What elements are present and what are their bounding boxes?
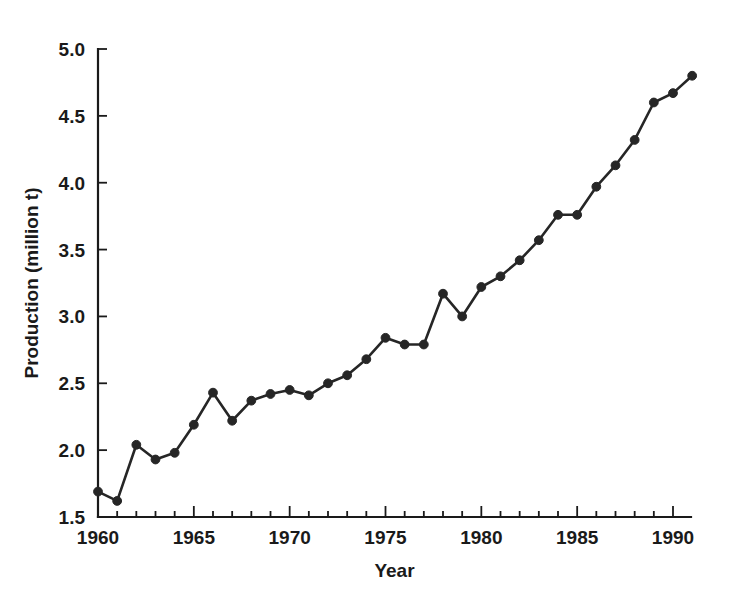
data-point-marker	[189, 420, 198, 429]
y-tick-label: 4.0	[59, 173, 85, 194]
plot-area	[94, 71, 697, 505]
data-point-marker	[554, 210, 563, 219]
data-point-marker	[343, 371, 352, 380]
data-point-marker	[285, 386, 294, 395]
y-tick-label: 5.0	[59, 39, 85, 60]
data-point-marker	[362, 355, 371, 364]
data-point-marker	[496, 272, 505, 281]
y-axis-title: Production (million t)	[21, 187, 42, 378]
x-tick-label: 1965	[173, 527, 216, 548]
data-point-marker	[324, 379, 333, 388]
data-point-marker	[688, 71, 697, 80]
x-axis: 1960196519701975198019851990	[77, 506, 694, 548]
y-tick-label: 3.5	[59, 240, 86, 261]
data-point-marker	[573, 210, 582, 219]
data-point-marker	[592, 182, 601, 191]
data-point-marker	[209, 388, 218, 397]
data-point-marker	[381, 333, 390, 342]
data-point-marker	[132, 440, 141, 449]
production-series-line	[98, 76, 692, 501]
data-point-marker	[304, 391, 313, 400]
y-tick-label: 3.0	[59, 306, 85, 327]
data-point-marker	[247, 396, 256, 405]
data-point-marker	[151, 455, 160, 464]
data-point-marker	[477, 283, 486, 292]
x-tick-label: 1970	[269, 527, 311, 548]
data-point-marker	[611, 161, 620, 170]
x-axis-title: Year	[374, 560, 415, 581]
y-tick-label: 4.5	[59, 106, 86, 127]
chart-page: 1.52.02.53.03.54.04.55.0 196019651970197…	[0, 0, 736, 590]
data-point-marker	[630, 136, 639, 145]
data-point-marker	[458, 312, 467, 321]
data-point-marker	[419, 340, 428, 349]
data-point-marker	[228, 416, 237, 425]
y-tick-label: 2.5	[59, 373, 86, 394]
data-point-marker	[400, 340, 409, 349]
data-point-marker	[113, 497, 122, 506]
x-tick-label: 1960	[77, 527, 119, 548]
production-line-chart: 1.52.02.53.03.54.04.55.0 196019651970197…	[0, 0, 736, 590]
x-tick-label: 1990	[652, 527, 694, 548]
data-point-marker	[515, 256, 524, 265]
x-tick-label: 1975	[364, 527, 407, 548]
x-tick-label: 1985	[556, 527, 599, 548]
data-point-marker	[266, 390, 275, 399]
data-point-marker	[534, 236, 543, 245]
data-point-marker	[170, 448, 179, 457]
y-tick-label: 2.0	[59, 440, 85, 461]
data-point-marker	[649, 98, 658, 107]
data-point-marker	[94, 487, 103, 496]
data-point-marker	[669, 89, 678, 98]
x-tick-label: 1980	[460, 527, 502, 548]
data-point-marker	[439, 289, 448, 298]
y-tick-label: 1.5	[59, 507, 86, 528]
y-axis: 1.52.02.53.03.54.04.55.0	[59, 39, 107, 528]
